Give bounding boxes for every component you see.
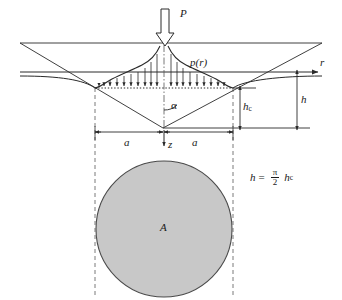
- label-contact-radius-left: a: [124, 137, 130, 148]
- label-hc-subscript: c: [249, 104, 252, 113]
- depth-relation-formula: h = π 2 hc: [250, 168, 293, 187]
- label-load-P: P: [180, 8, 187, 19]
- formula-lhs: h: [250, 172, 256, 183]
- formula-denominator: 2: [271, 177, 280, 187]
- label-r-axis: r: [320, 57, 324, 68]
- cone-flank-right: [163, 43, 322, 128]
- deformed-surface-right: [233, 76, 322, 88]
- load-arrow-P: [156, 9, 174, 46]
- label-contact-radius-right: a: [192, 137, 198, 148]
- label-pressure-function: p(r): [190, 57, 207, 68]
- formula-fraction: π 2: [271, 168, 280, 187]
- label-contact-area: A: [160, 222, 167, 233]
- formula-numerator: π: [271, 168, 280, 177]
- formula-rhs-subscript: c: [290, 174, 293, 182]
- pressure-curve-left: [95, 46, 160, 88]
- diagram-canvas: [0, 0, 342, 300]
- deformed-surface-left: [20, 76, 95, 88]
- formula-equals: =: [259, 172, 265, 183]
- label-z-axis: z: [168, 139, 172, 150]
- label-alpha-angle: α: [171, 100, 177, 111]
- label-total-depth: h: [301, 94, 307, 105]
- indentation-diagram: P p(r) r α hc h a a z A h = π 2 hc: [0, 0, 342, 300]
- label-contact-depth: hc: [243, 101, 252, 113]
